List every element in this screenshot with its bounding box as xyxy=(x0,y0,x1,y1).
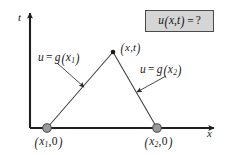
right-characteristic-label: u=g(x2) xyxy=(140,62,182,77)
g-symbol: g xyxy=(55,51,61,63)
subscript-index: 2 xyxy=(173,68,177,77)
u-symbol: u xyxy=(38,51,44,63)
equals-sign: = xyxy=(46,51,53,63)
open-paren: ( xyxy=(61,50,65,65)
close-paren: ) xyxy=(178,62,182,77)
equals-sign: = xyxy=(148,63,155,75)
close-paren: ) xyxy=(76,50,80,65)
close-paren: ) xyxy=(58,134,62,149)
base-left-marker xyxy=(43,124,52,133)
subscript-index: 1 xyxy=(71,56,75,65)
unknown-solution-expression: u(x,t)=? xyxy=(158,13,201,28)
close-paren: ) xyxy=(137,41,141,56)
x-axis-label: x xyxy=(207,128,212,139)
u-symbol: u xyxy=(140,63,146,75)
zero-value: 0 xyxy=(52,135,58,147)
open-paren: ( xyxy=(121,41,125,56)
base-right-marker xyxy=(153,124,162,133)
equals-sign: = xyxy=(187,15,194,27)
question-mark: ? xyxy=(196,15,201,27)
open-paren: ( xyxy=(163,62,167,77)
open-paren: ( xyxy=(35,134,39,149)
base-left-point-label: (x1,0) xyxy=(34,134,63,149)
characteristics-diagram: t x u(x,t)=? u=g(x1) u=g(x2) (x,t) (x1,0… xyxy=(0,0,231,155)
base-right-point-label: (x2,0) xyxy=(144,134,173,149)
right-leader-arrow xyxy=(137,76,166,92)
left-characteristic-label: u=g(x1) xyxy=(38,50,80,65)
zero-value: 0 xyxy=(162,135,168,147)
unknown-solution-box: u(x,t)=? xyxy=(145,10,214,32)
close-paren: ) xyxy=(181,13,185,28)
close-paren: ) xyxy=(168,134,172,149)
left-leader-arrow xyxy=(57,63,84,87)
open-paren: ( xyxy=(145,134,149,149)
apex-point-marker xyxy=(111,50,116,55)
apex-point-label: (x,t) xyxy=(120,41,141,56)
open-paren: ( xyxy=(164,13,168,28)
u-symbol: u xyxy=(158,15,164,27)
t-axis-label: t xyxy=(18,12,21,23)
g-symbol: g xyxy=(157,63,163,75)
